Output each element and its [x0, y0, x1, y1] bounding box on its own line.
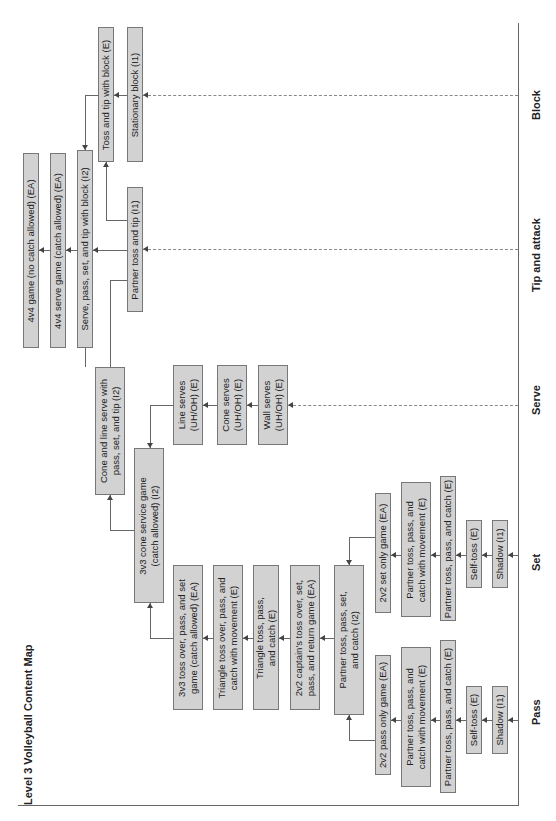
node-wall-serves: Wall serves (UH/OH) (E)	[258, 365, 288, 445]
baseline	[18, 805, 518, 806]
arrow-icon	[508, 552, 513, 558]
node-set-shadow: Shadow (I1)	[492, 520, 508, 588]
node-3v3-toss-over-game: 3v3 toss over, pass, and set game (catch…	[173, 565, 203, 710]
connector	[349, 740, 375, 741]
node-set-partner-movement: Partner toss, pass, and catch with movem…	[401, 482, 431, 617]
node-partner-toss-pass-set: Partner toss, pass, set, and catch (I2)	[334, 565, 364, 715]
connector	[150, 405, 151, 448]
node-set-partner-toss: Partner toss, pass, and catch (E)	[440, 476, 456, 621]
arrow-icon	[247, 402, 252, 408]
arrow-icon	[143, 246, 148, 252]
node-set-self-toss: Self-toss (E)	[466, 520, 482, 588]
node-4v4-serve-game: 4v4 serve game (catch allowed) (EA)	[50, 153, 66, 348]
node-pass-partner-movement: Partner toss, pass, and catch with movem…	[401, 647, 431, 787]
arrow-icon	[288, 402, 293, 408]
arrow-icon	[107, 495, 113, 500]
node-serve-pass-set-tip-block: Serve, pass, set, and tip with block (I2…	[77, 150, 93, 348]
arrow-icon	[243, 635, 248, 641]
axis-line	[518, 23, 519, 806]
arrow-icon	[431, 552, 436, 558]
axis-label-tip-and-attack: Tip and attack	[530, 218, 542, 292]
node-4v4-no-catch-game: 4v4 game (no catch allowed) (EA)	[23, 153, 39, 348]
node-toss-tip-block: Toss and tip with block (E)	[98, 27, 114, 162]
arrow-icon	[203, 635, 208, 641]
node-triangle-toss: Triangle toss, pass, and catch (E)	[253, 565, 279, 710]
arrow-icon	[456, 717, 461, 723]
arrow-icon	[39, 247, 44, 253]
arrow-icon	[431, 717, 436, 723]
node-pass-shadow: Shadow (I1)	[492, 686, 508, 754]
connector	[106, 162, 107, 220]
node-pass-partner-toss: Partner toss, pass, and catch (E)	[440, 640, 456, 793]
arrow-icon	[346, 715, 352, 720]
connector	[85, 95, 98, 96]
arrow-icon	[346, 560, 352, 565]
connector	[150, 603, 151, 638]
node-cone-serves: Cone serves (UH/OH) (E)	[217, 365, 247, 445]
arrow-icon	[391, 717, 396, 723]
connector	[106, 220, 127, 221]
arrow-icon	[320, 635, 325, 641]
node-partner-toss-tip: Partner toss and tip (I1)	[127, 187, 143, 312]
axis-label-serve: Serve	[530, 385, 542, 415]
arrow-icon	[66, 247, 71, 253]
connector	[150, 638, 173, 639]
arrow-icon	[147, 603, 153, 608]
arrow-icon	[482, 717, 487, 723]
node-stationary-block: Stationary block (I1)	[127, 27, 143, 162]
arrow-icon	[456, 552, 461, 558]
node-pass-2v2-only-game: 2v2 pass only game (EA)	[375, 655, 391, 775]
node-2v2-captains-game: 2v2 captain's toss over, set, pass, and …	[290, 565, 320, 710]
arrow-icon	[93, 247, 98, 253]
arrow-icon	[391, 552, 396, 558]
connector	[85, 95, 86, 150]
connector	[349, 537, 375, 538]
node-set-2v2-only-game: 2v2 set only game (EA)	[375, 493, 391, 613]
node-cone-line-serve: Cone and line serve with pass, set, and …	[95, 367, 125, 495]
axis-label-pass: Pass	[530, 699, 542, 725]
arrow-icon	[82, 145, 88, 150]
arrow-icon	[508, 717, 513, 723]
connector	[110, 280, 111, 367]
node-triangle-toss-over: Triangle toss over, pass, and catch with…	[213, 565, 243, 710]
serve-entry-line	[288, 405, 518, 406]
connector	[110, 495, 111, 530]
arrow-icon	[114, 92, 119, 98]
connector	[85, 348, 86, 367]
node-pass-self-toss: Self-toss (E)	[466, 686, 482, 754]
arrow-icon	[143, 92, 148, 98]
tip-entry-line	[143, 249, 518, 250]
connector	[93, 250, 127, 251]
arrow-icon	[279, 635, 284, 641]
node-line-serves: Line serves (UH/OH) (E)	[173, 365, 203, 445]
connector	[110, 530, 134, 531]
axis-label-block: Block	[530, 90, 542, 120]
connector	[150, 405, 173, 406]
page-title: Level 3 Volleyball Content Map	[22, 644, 34, 805]
arrow-icon	[482, 552, 487, 558]
block-entry-line	[143, 95, 518, 96]
arrow-icon	[103, 162, 109, 167]
node-3v3-cone-service-game: 3v3 cone service game (catch allowed) (I…	[134, 448, 164, 603]
axis-label-set: Set	[530, 554, 542, 571]
connector	[110, 280, 127, 281]
arrow-icon	[203, 402, 208, 408]
